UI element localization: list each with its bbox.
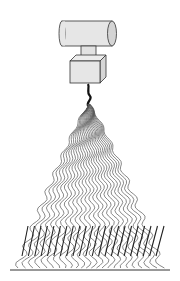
aligned-fiber — [156, 226, 164, 256]
aligned-fiber — [150, 226, 158, 256]
aligned-fiber — [79, 226, 86, 256]
aligned-fiber — [28, 226, 34, 256]
aligned-fiber — [22, 226, 28, 256]
cube-nozzle-block — [70, 61, 100, 83]
apparatus — [59, 21, 117, 83]
aligned-fiber — [118, 226, 125, 256]
aligned-fiber — [73, 226, 80, 256]
fiber-deposition-diagram — [0, 0, 180, 281]
caption-fragment — [0, 276, 180, 281]
aligned-fiber — [54, 226, 61, 256]
fiber-jet — [88, 84, 91, 106]
aligned-fiber — [105, 226, 112, 256]
aligned-fiber — [137, 226, 145, 256]
cylinder-reservoir — [62, 21, 112, 46]
aligned-fiber — [35, 226, 41, 256]
wavy-fiber — [59, 104, 90, 268]
aligned-fiber — [143, 226, 151, 256]
aligned-fiber — [99, 226, 106, 256]
cylinder-right-end — [108, 21, 117, 46]
